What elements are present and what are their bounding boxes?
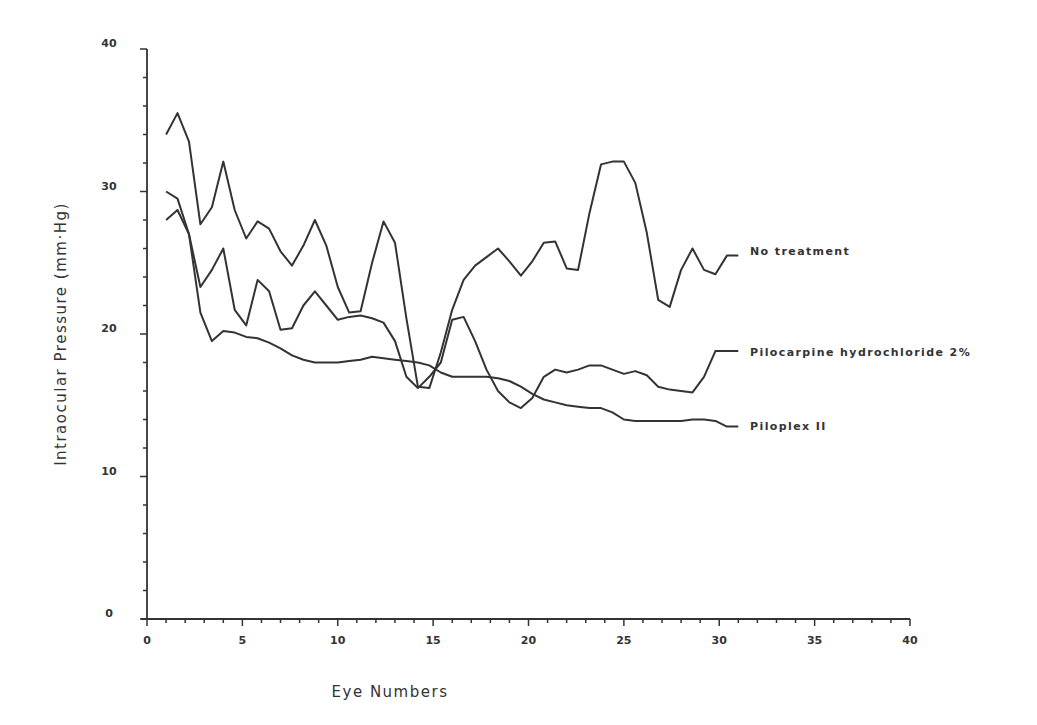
legend-label: No treatment: [750, 245, 850, 258]
line-chart: 010203040 0510152025303540 No treatmentP…: [0, 0, 1037, 725]
legend: No treatmentPilocarpine hydrochloride 2%…: [750, 245, 971, 433]
x-tick-label: 10: [330, 634, 346, 647]
x-tick-label: 5: [239, 634, 247, 647]
y-tick-label: 0: [105, 607, 113, 620]
x-axis-title: Eye Numbers: [332, 683, 449, 701]
x-tick-label: 20: [521, 634, 537, 647]
x-tick-label: 30: [712, 634, 728, 647]
y-tick-label: 30: [101, 180, 117, 193]
legend-label: Piloplex II: [750, 420, 827, 433]
series-layer: [166, 113, 738, 427]
x-axis: 0510152025303540: [141, 619, 918, 647]
y-axis: 010203040: [101, 37, 147, 620]
y-tick-label: 10: [101, 465, 117, 478]
x-tick-label: 40: [902, 634, 918, 647]
y-axis-title: Intraocular Pressure (mm·Hg): [52, 202, 70, 466]
series-line-0: [166, 113, 738, 388]
x-tick-label: 0: [143, 634, 151, 647]
legend-label: Pilocarpine hydrochloride 2%: [750, 346, 971, 359]
y-tick-label: 20: [101, 322, 117, 335]
x-tick-label: 25: [616, 634, 631, 647]
y-tick-label: 40: [101, 37, 117, 50]
x-tick-label: 15: [425, 634, 440, 647]
x-tick-label: 35: [807, 634, 822, 647]
